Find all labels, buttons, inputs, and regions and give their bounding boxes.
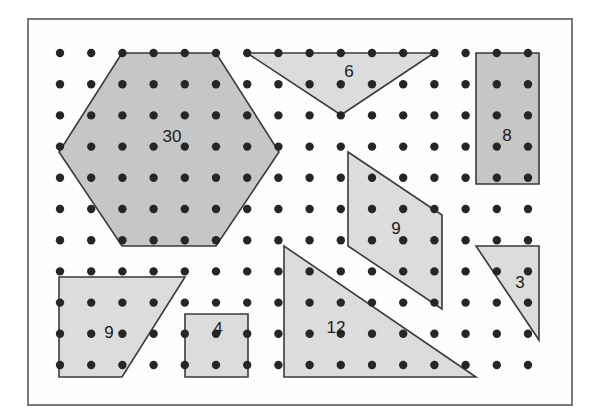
grid-dot bbox=[430, 330, 438, 338]
grid-dot bbox=[524, 142, 532, 150]
grid-dot bbox=[461, 111, 469, 119]
grid-dot bbox=[212, 49, 220, 57]
grid-dot bbox=[149, 49, 157, 57]
grid-dot bbox=[368, 80, 376, 88]
grid-dot bbox=[524, 49, 532, 57]
area-label-trapezoid: 9 bbox=[104, 323, 113, 342]
grid-dot bbox=[243, 361, 251, 369]
grid-dot bbox=[212, 80, 220, 88]
grid-dot bbox=[243, 80, 251, 88]
grid-dot bbox=[87, 80, 95, 88]
grid-dot bbox=[368, 330, 376, 338]
grid-dot bbox=[181, 236, 189, 244]
grid-dot bbox=[274, 361, 282, 369]
grid-dot bbox=[181, 330, 189, 338]
grid-dot bbox=[399, 142, 407, 150]
grid-dot bbox=[461, 174, 469, 182]
grid-dot bbox=[274, 205, 282, 213]
grid-dot bbox=[87, 267, 95, 275]
grid-dot bbox=[461, 80, 469, 88]
grid-dot bbox=[305, 111, 313, 119]
grid-dot bbox=[493, 236, 501, 244]
grid-dot bbox=[430, 49, 438, 57]
grid-dot bbox=[118, 330, 126, 338]
grid-dot bbox=[399, 205, 407, 213]
grid-dot bbox=[243, 236, 251, 244]
grid-dot bbox=[149, 267, 157, 275]
grid-dot bbox=[56, 267, 64, 275]
grid-dot bbox=[243, 174, 251, 182]
grid-dot bbox=[368, 205, 376, 213]
grid-dot bbox=[337, 205, 345, 213]
grid-dot bbox=[274, 49, 282, 57]
area-label-rectangle: 8 bbox=[502, 126, 511, 145]
grid-dot bbox=[212, 236, 220, 244]
grid-dot bbox=[87, 49, 95, 57]
grid-dot bbox=[274, 267, 282, 275]
grid-dot bbox=[337, 361, 345, 369]
grid-dot bbox=[149, 142, 157, 150]
grid-dot bbox=[493, 142, 501, 150]
grid-dot bbox=[87, 298, 95, 306]
grid-dot bbox=[56, 80, 64, 88]
grid-dot bbox=[149, 298, 157, 306]
grid-dot bbox=[149, 174, 157, 182]
grid-dot bbox=[399, 174, 407, 182]
grid-dot bbox=[524, 330, 532, 338]
grid-dot bbox=[212, 111, 220, 119]
grid-dot bbox=[493, 361, 501, 369]
grid-dot bbox=[399, 111, 407, 119]
grid-dot bbox=[118, 49, 126, 57]
grid-dot bbox=[399, 298, 407, 306]
grid-dot bbox=[337, 174, 345, 182]
grid-dot bbox=[399, 49, 407, 57]
grid-dot bbox=[274, 80, 282, 88]
grid-dot bbox=[212, 298, 220, 306]
grid-dot bbox=[149, 330, 157, 338]
grid-dot bbox=[56, 298, 64, 306]
grid-dot bbox=[243, 267, 251, 275]
grid-dot bbox=[524, 298, 532, 306]
grid-dot bbox=[399, 330, 407, 338]
grid-dot bbox=[493, 298, 501, 306]
grid-dot bbox=[56, 205, 64, 213]
grid-dot bbox=[181, 267, 189, 275]
grid-dot bbox=[87, 111, 95, 119]
grid-dot bbox=[368, 236, 376, 244]
area-label-parallelogram: 9 bbox=[391, 219, 400, 238]
grid-dot bbox=[430, 80, 438, 88]
grid-dot bbox=[305, 236, 313, 244]
grid-dot bbox=[430, 361, 438, 369]
grid-dot bbox=[181, 361, 189, 369]
grid-dot bbox=[430, 267, 438, 275]
grid-dot bbox=[243, 111, 251, 119]
grid-dot bbox=[243, 330, 251, 338]
grid-dot bbox=[181, 298, 189, 306]
grid-dot bbox=[181, 111, 189, 119]
grid-dot bbox=[399, 80, 407, 88]
grid-dot bbox=[149, 111, 157, 119]
grid-dot bbox=[87, 236, 95, 244]
grid-dot bbox=[524, 80, 532, 88]
grid-dot bbox=[368, 267, 376, 275]
grid-dot bbox=[243, 142, 251, 150]
grid-dot bbox=[87, 361, 95, 369]
grid-dot bbox=[399, 267, 407, 275]
grid-dot bbox=[430, 298, 438, 306]
grid-dot bbox=[305, 142, 313, 150]
grid-dot bbox=[430, 236, 438, 244]
grid-dot bbox=[337, 298, 345, 306]
grid-dot bbox=[56, 361, 64, 369]
grid-dot bbox=[118, 267, 126, 275]
grid-dot bbox=[181, 80, 189, 88]
grid-dot bbox=[149, 80, 157, 88]
grid-dot bbox=[56, 49, 64, 57]
grid-dot bbox=[461, 298, 469, 306]
grid-dot bbox=[337, 49, 345, 57]
grid-dot bbox=[243, 205, 251, 213]
grid-dot bbox=[524, 267, 532, 275]
grid-dot bbox=[118, 80, 126, 88]
grid-dot bbox=[337, 267, 345, 275]
grid-dot bbox=[243, 298, 251, 306]
grid-dot bbox=[524, 111, 532, 119]
